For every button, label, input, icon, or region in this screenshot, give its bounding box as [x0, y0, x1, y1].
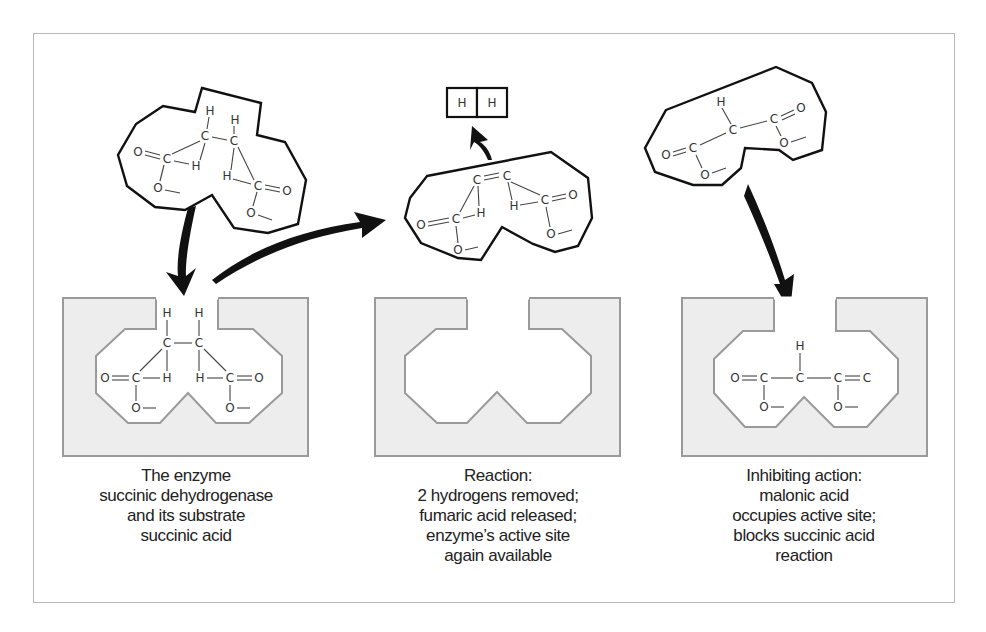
enzyme-with-inhibitor: H O C C C C O O: [682, 298, 927, 456]
svg-text:H: H: [476, 206, 485, 220]
caption-line: enzyme’s active site: [368, 526, 628, 546]
caption-line: again available: [368, 546, 628, 566]
svg-text:C: C: [473, 173, 481, 187]
svg-text:C: C: [195, 336, 203, 350]
svg-text:H: H: [195, 371, 204, 385]
svg-text:O: O: [100, 371, 109, 385]
svg-text:O: O: [153, 181, 162, 195]
svg-text:C: C: [452, 212, 460, 226]
caption-line: Reaction:: [368, 466, 628, 486]
svg-text:O: O: [133, 145, 142, 159]
svg-text:H: H: [205, 104, 214, 118]
svg-text:O: O: [546, 227, 555, 241]
caption-inhibition: Inhibiting action: malonic acid occupies…: [674, 466, 934, 566]
svg-text:O: O: [282, 184, 291, 198]
svg-text:C: C: [863, 371, 871, 385]
svg-text:O: O: [833, 400, 842, 414]
svg-text:O: O: [661, 148, 670, 162]
svg-text:O: O: [779, 136, 788, 150]
svg-text:O: O: [225, 401, 234, 415]
hydrogen-pair: H H: [447, 88, 507, 117]
svg-text:C: C: [729, 123, 737, 137]
caption-line: succinic acid: [56, 526, 316, 546]
svg-text:H: H: [191, 159, 200, 173]
svg-text:C: C: [201, 129, 209, 143]
svg-text:C: C: [163, 152, 171, 166]
caption-line: occupies active site;: [674, 506, 934, 526]
caption-substrate: The enzyme succinic dehydrogenase and it…: [56, 466, 316, 546]
binding-arrow-icon: [166, 206, 196, 296]
svg-text:O: O: [131, 401, 140, 415]
svg-text:C: C: [503, 169, 511, 183]
malonic-acid-molecule: H C C O O C O O: [645, 67, 826, 185]
svg-text:H: H: [162, 306, 171, 320]
svg-text:C: C: [834, 371, 842, 385]
caption-reaction: Reaction: 2 hydrogens removed; fumaric a…: [368, 466, 628, 566]
svg-text:O: O: [416, 218, 425, 232]
caption-line: and its substrate: [56, 506, 316, 526]
svg-text:C: C: [254, 179, 262, 193]
enzyme-with-substrate: H H C C O C H H C O O O: [63, 298, 308, 456]
svg-text:O: O: [700, 168, 709, 182]
caption-line: The enzyme: [56, 466, 316, 486]
hydrogen-removal-arrow-icon: [470, 126, 492, 160]
svg-text:C: C: [796, 371, 804, 385]
caption-line: succinic dehydrogenase: [56, 486, 316, 506]
svg-text:C: C: [132, 371, 140, 385]
svg-text:H: H: [509, 199, 518, 213]
svg-text:O: O: [796, 101, 805, 115]
svg-text:H: H: [230, 113, 239, 127]
inhibitor-binding-arrow-icon: [744, 184, 794, 312]
svg-text:H: H: [194, 306, 203, 320]
svg-text:O: O: [254, 371, 263, 385]
svg-text:C: C: [770, 112, 778, 126]
caption-line: 2 hydrogens removed;: [368, 486, 628, 506]
caption-line: fumaric acid released;: [368, 506, 628, 526]
svg-text:H: H: [457, 96, 466, 110]
enzyme-empty-active-site: [375, 298, 620, 456]
svg-text:H: H: [716, 95, 725, 109]
fumaric-acid-molecule: C C O C H H C O O O: [405, 152, 592, 260]
svg-text:O: O: [759, 400, 768, 414]
svg-text:C: C: [230, 134, 238, 148]
caption-line: malonic acid: [674, 486, 934, 506]
caption-line: blocks succinic acid: [674, 526, 934, 546]
svg-text:H: H: [487, 96, 496, 110]
svg-text:H: H: [222, 169, 231, 183]
svg-text:O: O: [246, 206, 255, 220]
svg-text:H: H: [795, 339, 804, 353]
svg-text:C: C: [226, 371, 234, 385]
svg-text:C: C: [163, 336, 171, 350]
svg-text:O: O: [568, 188, 577, 202]
svg-text:C: C: [541, 193, 549, 207]
svg-text:H: H: [162, 371, 171, 385]
svg-text:C: C: [689, 141, 697, 155]
caption-line: reaction: [674, 546, 934, 566]
svg-text:C: C: [760, 371, 768, 385]
svg-text:O: O: [730, 371, 739, 385]
svg-text:O: O: [453, 243, 462, 257]
succinic-acid-molecule: H C H C O C H O H C O O: [118, 88, 306, 233]
caption-line: Inhibiting action:: [674, 466, 934, 486]
